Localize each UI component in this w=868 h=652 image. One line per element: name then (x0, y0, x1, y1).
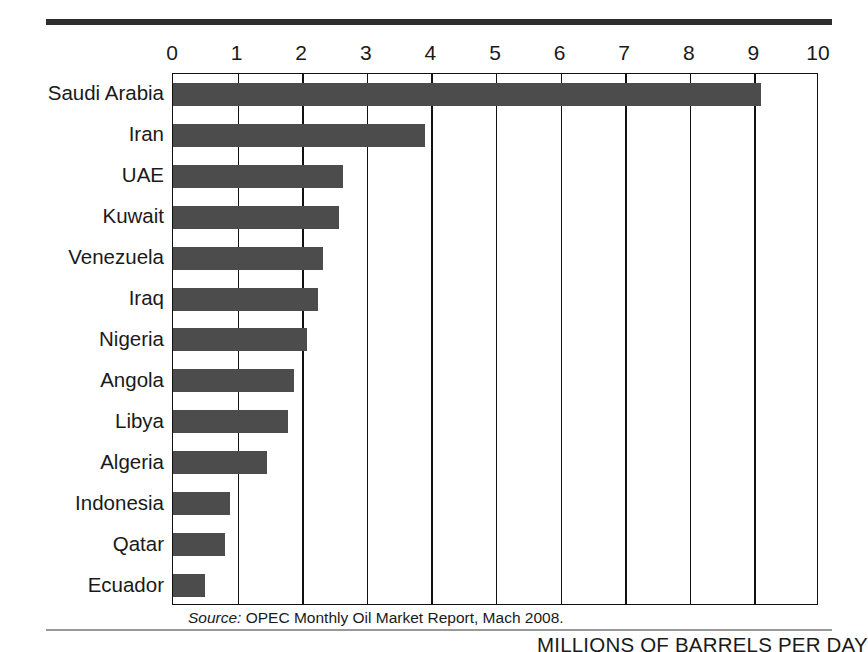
bar-row (173, 565, 817, 606)
x-axis-tick-4: 4 (410, 40, 450, 66)
bar-ecuador (173, 574, 205, 597)
plot-area: MILLIONS OF BARRELS PER DAY (172, 73, 818, 605)
bottom-rule (46, 629, 832, 631)
x-axis-tick-5: 5 (475, 40, 515, 66)
bar-row (173, 442, 817, 483)
bar-row (173, 401, 817, 442)
x-axis-tick-labels: 012345678910 (0, 40, 862, 70)
category-label-iraq: Iraq (0, 286, 164, 310)
axis-annotation: MILLIONS OF BARRELS PER DAY (537, 633, 868, 652)
category-label-kuwait: Kuwait (0, 204, 164, 228)
bar-saudi-arabia (173, 83, 761, 106)
category-label-angola: Angola (0, 368, 164, 392)
category-labels: Saudi ArabiaIranUAEKuwaitVenezuelaIraqNi… (0, 73, 164, 605)
bar-venezuela (173, 247, 323, 270)
x-axis-tick-3: 3 (346, 40, 386, 66)
bar-row (173, 74, 817, 115)
category-label-algeria: Algeria (0, 450, 164, 474)
bar-iran (173, 124, 425, 147)
bar-qatar (173, 533, 225, 556)
top-rule (46, 19, 832, 25)
bar-indonesia (173, 492, 230, 515)
category-label-nigeria: Nigeria (0, 327, 164, 351)
x-axis-tick-8: 8 (669, 40, 709, 66)
bar-nigeria (173, 328, 307, 351)
category-label-qatar: Qatar (0, 532, 164, 556)
bar-angola (173, 369, 294, 392)
bar-uae (173, 165, 343, 188)
category-label-indonesia: Indonesia (0, 491, 164, 515)
bar-row (173, 524, 817, 565)
category-label-ecuador: Ecuador (0, 573, 164, 597)
bar-iraq (173, 288, 318, 311)
x-axis-tick-9: 9 (733, 40, 773, 66)
category-label-saudi-arabia: Saudi Arabia (0, 81, 164, 105)
x-axis-tick-0: 0 (152, 40, 192, 66)
bar-rows (173, 74, 817, 604)
bar-row (173, 197, 817, 238)
category-label-venezuela: Venezuela (0, 245, 164, 269)
bar-libya (173, 410, 288, 433)
x-axis-tick-10: 10 (798, 40, 838, 66)
x-axis-tick-6: 6 (540, 40, 580, 66)
bar-row (173, 320, 817, 361)
x-axis-tick-1: 1 (217, 40, 257, 66)
bar-row (173, 279, 817, 320)
category-label-libya: Libya (0, 409, 164, 433)
bar-row (173, 156, 817, 197)
bar-row (173, 115, 817, 156)
bar-row (173, 238, 817, 279)
bar-algeria (173, 451, 267, 474)
x-axis-tick-7: 7 (604, 40, 644, 66)
bar-kuwait (173, 206, 339, 229)
bar-row (173, 360, 817, 401)
category-label-uae: UAE (0, 163, 164, 187)
source-text: OPEC Monthly Oil Market Report, Mach 200… (241, 609, 563, 626)
bar-row (173, 483, 817, 524)
x-axis-tick-2: 2 (281, 40, 321, 66)
source-note: Source: OPEC Monthly Oil Market Report, … (188, 608, 564, 627)
source-label: Source: (188, 609, 241, 626)
category-label-iran: Iran (0, 122, 164, 146)
